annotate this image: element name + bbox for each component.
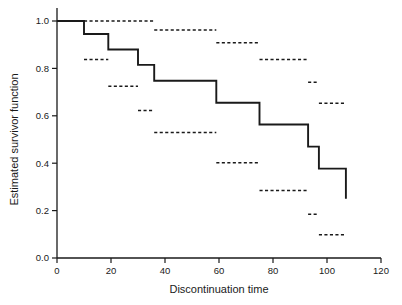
x-tick-label: 40 xyxy=(160,265,171,276)
x-tick-label: 80 xyxy=(268,265,279,276)
x-tick-label: 20 xyxy=(106,265,117,276)
x-tick-label: 100 xyxy=(319,265,335,276)
y-tick-label: 0.8 xyxy=(36,63,49,74)
survival-chart: 0204060801001200.00.20.40.60.81.0Discont… xyxy=(0,0,402,305)
y-axis-title: Estimated survivor function xyxy=(8,73,20,205)
y-tick-label: 0.2 xyxy=(36,205,49,216)
km-survival-curve xyxy=(57,21,346,199)
chart-canvas: 0204060801001200.00.20.40.60.81.0Discont… xyxy=(0,0,402,305)
x-tick-label: 60 xyxy=(214,265,225,276)
x-axis-title: Discontinuation time xyxy=(169,283,268,295)
y-tick-label: 0.6 xyxy=(36,110,49,121)
y-tick-label: 0.0 xyxy=(36,252,49,263)
y-tick-label: 1.0 xyxy=(36,15,49,26)
x-tick-label: 120 xyxy=(373,265,389,276)
y-tick-label: 0.4 xyxy=(36,158,49,169)
x-tick-label: 0 xyxy=(54,265,59,276)
